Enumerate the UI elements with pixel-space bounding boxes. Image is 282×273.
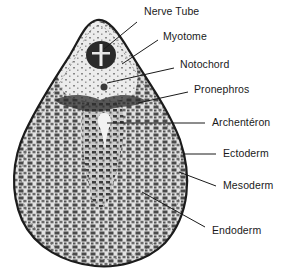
label-mesoderm: Mesoderm	[223, 180, 273, 191]
embryo-section-figure: Nerve Tube Myotome Notochord Pronephros …	[0, 0, 282, 273]
notochord-structure	[101, 84, 108, 91]
label-archenteron: Archentéron	[212, 117, 270, 128]
nerve-tube-structure	[86, 41, 116, 69]
label-myotome: Myotome	[163, 31, 207, 42]
label-notochord: Notochord	[180, 59, 229, 70]
label-endoderm: Endoderm	[212, 225, 261, 236]
label-nerve-tube: Nerve Tube	[144, 6, 199, 17]
label-ectoderm: Ectoderm	[223, 148, 269, 159]
label-pronephros: Pronephros	[194, 84, 249, 95]
